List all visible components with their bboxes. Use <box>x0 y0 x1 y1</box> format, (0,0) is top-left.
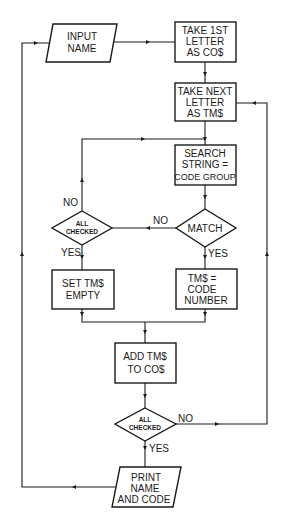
arrowhead <box>203 312 207 316</box>
node-text: TM$ = <box>188 273 217 284</box>
edge-label-all-checked-2-yes: YES <box>149 443 169 454</box>
arrowhead <box>80 312 84 316</box>
node-text: LETTER <box>186 97 224 108</box>
edge-label-match-yes: YES <box>208 248 228 259</box>
edge-label-all-checked-1-no: NO <box>63 197 78 208</box>
node-text: SEARCH <box>184 148 226 159</box>
node-set-tm-empty: SET TM$ EMPTY <box>52 270 114 309</box>
flowchart: INPUT NAME TAKE 1ST LETTER AS CO$ TAKE N… <box>0 0 284 526</box>
node-text: AS CO$ <box>187 47 224 58</box>
node-text: NUMBER <box>184 295 227 306</box>
node-text: LETTER <box>186 36 224 47</box>
node-text: NAME <box>131 483 160 494</box>
node-text: AS TM$ <box>187 108 223 119</box>
edge-label-all-checked-2-no: NO <box>178 413 193 424</box>
arrowhead <box>215 422 219 426</box>
node-text: CHECKED <box>66 228 98 235</box>
edge-print-to-input <box>22 43 116 487</box>
node-text: ADD TM$ <box>123 351 167 362</box>
node-add-tm-to-co: ADD TM$ TO CO$ <box>115 343 176 383</box>
node-print-name-and-code: PRINT NAME AND CODE <box>112 467 181 507</box>
arrowhead <box>80 178 84 182</box>
node-text: TAKE 1ST <box>182 25 229 36</box>
node-text: TAKE NEXT <box>178 86 233 97</box>
arrowhead <box>203 195 207 199</box>
arrowhead <box>265 252 269 256</box>
arrowhead <box>20 252 24 256</box>
node-take-first-letter: TAKE 1ST LETTER AS CO$ <box>175 22 236 62</box>
node-take-next-letter: TAKE NEXT LETTER AS TM$ <box>175 83 236 121</box>
arrowhead <box>146 226 150 230</box>
arrowhead <box>143 330 147 334</box>
node-search-string: SEARCH STRING = CODE GROUP <box>174 145 236 185</box>
arrowhead <box>143 394 147 398</box>
node-text: SET TM$ <box>62 278 104 289</box>
node-text: CHECKED <box>129 424 161 431</box>
node-text: CODE <box>188 284 217 295</box>
node-text: MATCH <box>188 223 223 234</box>
edge-label-all-checked-1-yes: YES <box>61 247 81 258</box>
node-all-checked-decision-2: ALL CHECKED <box>115 408 176 441</box>
arrowhead <box>141 137 145 141</box>
node-text: ALL <box>76 220 89 227</box>
node-text: PRINT <box>131 472 161 483</box>
node-input-name: INPUT NAME <box>46 24 117 62</box>
arrowhead <box>252 101 256 105</box>
edge-label-match-no: NO <box>153 215 168 226</box>
node-match-decision: MATCH <box>176 209 236 247</box>
node-text: ALL <box>139 416 152 423</box>
edge-merge-to-add <box>82 309 205 343</box>
node-tm-code-number: TM$ = CODE NUMBER <box>176 269 237 309</box>
arrowhead <box>203 255 207 259</box>
node-text: INPUT <box>67 31 97 42</box>
arrowhead <box>34 41 38 45</box>
node-text: TO CO$ <box>127 364 164 375</box>
node-all-checked-decision-1: ALL CHECKED <box>52 211 112 245</box>
arrowhead <box>143 446 147 450</box>
node-text: STRING = <box>182 159 229 170</box>
node-text: EMPTY <box>66 290 101 301</box>
node-text: NAME <box>68 43 97 54</box>
node-text: CODE GROUP <box>174 172 236 182</box>
arrowhead <box>72 485 76 489</box>
arrowhead <box>203 72 207 76</box>
node-text: AND CODE <box>118 494 171 505</box>
arrowhead <box>146 40 150 44</box>
